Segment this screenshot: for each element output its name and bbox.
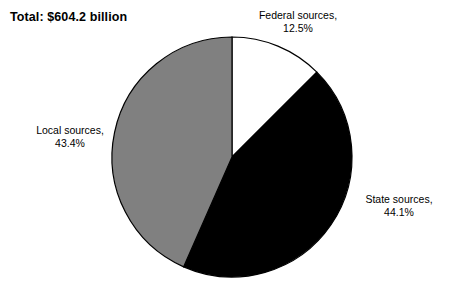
pie-label-state-name: State sources, — [365, 193, 432, 205]
pie-label-federal-sources: Federal sources, 12.5% — [248, 9, 348, 35]
pie-label-state-sources: State sources, 44.1% — [353, 193, 445, 219]
pie-chart-figure: Total: $604.2 billion Federal sources, 1… — [0, 0, 449, 289]
pie-label-state-percent: 44.1% — [353, 206, 445, 219]
pie-label-local-sources: Local sources, 43.4% — [24, 124, 116, 150]
pie-label-local-percent: 43.4% — [24, 137, 116, 150]
pie-label-federal-percent: 12.5% — [248, 22, 348, 35]
pie-label-federal-name: Federal sources, — [259, 9, 337, 21]
pie-label-local-name: Local sources, — [36, 124, 104, 136]
